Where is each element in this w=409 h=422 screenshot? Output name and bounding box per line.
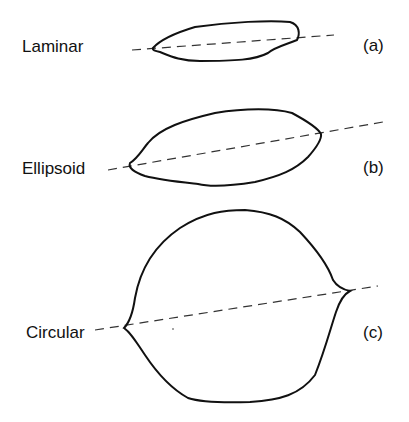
ellipsoid-shape [108, 109, 383, 185]
label-circular: Circular [26, 324, 85, 341]
tag-a: (a) [363, 37, 384, 54]
tag-b: (b) [363, 159, 384, 176]
label-laminar: Laminar [22, 38, 83, 55]
label-ellipsoid: Ellipsoid [22, 160, 85, 177]
laminar-shape [132, 21, 334, 61]
particle-shapes-diagram [0, 0, 409, 422]
ellipsoid-axis-line [108, 122, 383, 170]
circular-shape [95, 210, 378, 402]
circular-axis-line [95, 286, 378, 330]
laminar-axis-line [132, 35, 334, 50]
tag-c: (c) [363, 324, 383, 341]
